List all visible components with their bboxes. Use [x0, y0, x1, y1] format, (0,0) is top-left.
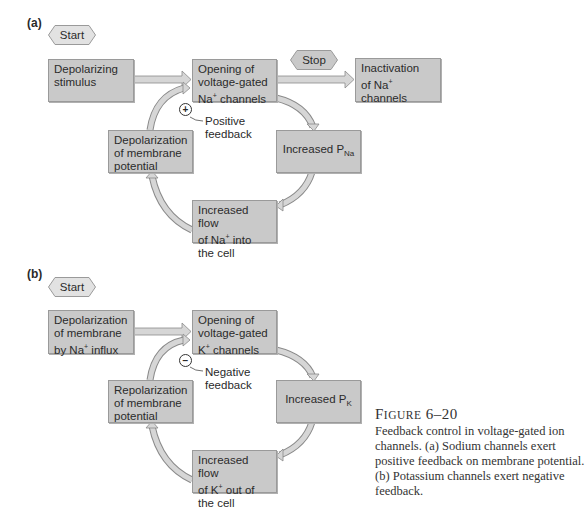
- arrow-a-opening-to-inactivation: [276, 71, 354, 88]
- line-1: Increased flow: [198, 454, 271, 480]
- line-3: potential: [114, 410, 187, 423]
- start-terminal-a: Start: [48, 25, 96, 45]
- line-3: the cell: [198, 497, 271, 510]
- panel-b-label: (b): [27, 267, 42, 281]
- line-2: voltage-gated: [198, 76, 271, 89]
- line-1: Depolarization: [54, 314, 128, 327]
- line-2: of membrane: [54, 327, 128, 340]
- figure-title: FIGURE 6–20: [375, 406, 458, 423]
- line-1: Inactivation: [361, 62, 435, 75]
- stop-label: Stop: [302, 54, 326, 66]
- box-opening-k-channels: Opening of voltage-gated K+ channels: [192, 310, 277, 354]
- box-depolarization-membrane: Depolarization of membrane potential: [108, 130, 193, 173]
- line-2: voltage-gated: [198, 327, 271, 340]
- line-3: the cell: [198, 247, 271, 260]
- line-1: Repolarization: [114, 384, 187, 397]
- start-terminal-b: Start: [48, 277, 96, 297]
- box-increased-pna: Increased PNa: [276, 130, 361, 173]
- box-opening-na-channels: Opening of voltage-gated Na+ channels: [192, 59, 277, 102]
- stop-terminal-a: Stop: [290, 50, 338, 70]
- box-text: Increased PK: [285, 393, 352, 410]
- box-text: Increased PNa: [283, 143, 355, 160]
- line-1: Increased flow: [198, 204, 271, 230]
- box-increased-pk: Increased PK: [276, 380, 361, 423]
- box-depolarization-na-influx: Depolarization of membrane by Na+ influx: [48, 310, 134, 354]
- box-inactivation-na-channels: Inactivation of Na+ channels: [355, 58, 441, 102]
- box-depolarizing-stimulus: Depolarizing stimulus: [48, 59, 134, 102]
- line-1: Opening of: [198, 63, 271, 76]
- panel-a-label: (a): [27, 16, 42, 30]
- line-3: potential: [114, 160, 187, 173]
- line-3: K+ channels: [198, 340, 271, 357]
- line-3: by Na+ influx: [54, 340, 128, 357]
- line-2: of Na+ into: [198, 230, 271, 247]
- line-1: Depolarization: [114, 134, 187, 147]
- minus-feedback-icon: −: [179, 354, 192, 367]
- line-2: of K+ out of: [198, 480, 271, 497]
- start-label: Start: [60, 29, 84, 41]
- box-text: Depolarizing stimulus: [54, 63, 118, 88]
- plus-feedback-icon: +: [179, 103, 192, 116]
- start-label: Start: [60, 281, 84, 293]
- box-repolarization-membrane: Repolarization of membrane potential: [108, 380, 193, 423]
- figure-caption: Feedback control in voltage-gated ion ch…: [375, 424, 585, 499]
- line-2: of membrane: [114, 147, 187, 160]
- line-2: of Na+ channels: [361, 75, 435, 105]
- line-1: Opening of: [198, 314, 271, 327]
- box-increased-flow-na: Increased flow of Na+ into the cell: [192, 200, 277, 243]
- positive-feedback-label: Positive feedback: [205, 115, 252, 141]
- line-2: of membrane: [114, 397, 187, 410]
- negative-feedback-label: Negative feedback: [205, 366, 252, 392]
- line-3: Na+ channels: [198, 89, 271, 106]
- box-increased-flow-k: Increased flow of K+ out of the cell: [192, 450, 277, 493]
